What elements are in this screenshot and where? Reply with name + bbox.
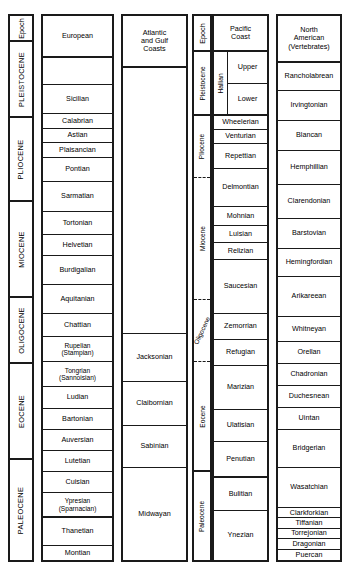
pacific-marizian: Marizian <box>214 366 267 410</box>
nam-whitneyan: Whitneyan <box>278 317 340 342</box>
column-epoch-european: Epoch PLEISTOCENE PLIOCENE MIOCENE OLIGO… <box>8 14 34 562</box>
european-montian: Montian <box>43 546 112 560</box>
epoch-left-oligocene: OLIGOCENE <box>10 298 32 364</box>
atlantic-sabinian: Sabinian <box>123 426 186 468</box>
nam-arikareean: Arikareean <box>278 277 340 317</box>
pacific-refugian: Refugian <box>214 340 267 366</box>
header-epoch-right: Epoch <box>194 16 210 52</box>
column-pacific-coast: Pacific Coast Hallian Upper Lower Wheele… <box>212 14 269 562</box>
nam-chadronian: Chadronian <box>278 364 340 386</box>
nam-barstovian: Barstovian <box>278 219 340 249</box>
european-sicilian: Sicilian <box>43 85 112 114</box>
european-chattian: Chattian <box>43 314 112 337</box>
epoch-left-eocene: EOCENE <box>10 364 32 460</box>
european-ypresian: Ypresian (Sparnacian) <box>43 493 112 518</box>
european-astian: Astian <box>43 129 112 143</box>
column-atlantic-gulf: Atlantic and Gulf Coasts Jacksonian Clai… <box>121 14 188 562</box>
header-pacific-coast: Pacific Coast <box>214 16 267 52</box>
epoch-right-oligocene: Oligocene <box>194 300 210 362</box>
nam-rancholabrean: Rancholabrean <box>278 63 340 91</box>
nam-tiffanian: Tiffanian <box>278 518 340 528</box>
epoch-left-paleocene: PALEOCENE <box>10 460 32 560</box>
nam-uintan: Uintan <box>278 408 340 430</box>
pacific-ynezian: Ynezian <box>214 511 267 560</box>
column-north-american-vertebrates: North American (Vertebrates) Rancholabre… <box>276 14 342 562</box>
atlantic-blank-row <box>123 68 186 334</box>
nam-hemphillian: Hemphillian <box>278 151 340 185</box>
epoch-left-pliocene: PLIOCENE <box>10 118 32 202</box>
nam-irvingtonian: Irvingtonian <box>278 91 340 121</box>
pacific-bulitian: Bulitian <box>214 478 267 511</box>
pacific-hallian-lower: Lower <box>228 84 267 116</box>
nam-blancan: Blancan <box>278 121 340 151</box>
atlantic-midwayan: Midwayan <box>123 468 186 560</box>
header-epoch-left: Epoch <box>10 16 32 42</box>
header-european: European <box>43 16 112 58</box>
pacific-luisian: Luisian <box>214 226 267 243</box>
header-atlantic-gulf: Atlantic and Gulf Coasts <box>123 16 186 68</box>
european-tortonian: Tortonian <box>43 212 112 235</box>
pacific-hallian-upper: Upper <box>228 52 267 84</box>
epoch-right-paleocene: Paleocene <box>194 472 210 560</box>
column-european: European Sicilian Calabrian Astian Plais… <box>41 14 114 562</box>
nam-clarkforkian: Clarkforkian <box>278 508 340 518</box>
pacific-ulatisian: Ulatisian <box>214 410 267 442</box>
pacific-mohnian: Mohnian <box>214 207 267 226</box>
epoch-right-miocene: Miocene <box>194 178 210 300</box>
european-lutetian: Lutetian <box>43 451 112 472</box>
nam-dragonian: Dragonian <box>278 539 340 549</box>
european-blank-row <box>43 58 112 85</box>
european-sarmatian: Sarmatian <box>43 182 112 212</box>
pacific-relizian: Relizian <box>214 243 267 260</box>
epoch-right-pliocene: Pliocene <box>194 116 210 178</box>
epoch-right-pleistocene: Pleistocene <box>194 52 210 116</box>
european-rupelian: Rupelian (Stampian) <box>43 337 112 362</box>
pacific-delmontian: Delmontian <box>214 169 267 207</box>
pacific-hallian: Hallian <box>214 52 228 116</box>
european-auversian: Auversian <box>43 430 112 451</box>
european-plaisancian: Plaisancian <box>43 143 112 158</box>
european-aquitanian: Aquitanian <box>43 285 112 314</box>
epoch-left-miocene: MIOCENE <box>10 202 32 298</box>
pacific-zemorrian: Zemorrian <box>214 314 267 340</box>
pacific-venturian: Venturian <box>214 130 267 144</box>
nam-orellan: Orellan <box>278 342 340 364</box>
pacific-repettian: Repettian <box>214 144 267 169</box>
european-pontian: Pontian <box>43 158 112 182</box>
epoch-right-eocene: Eocene <box>194 362 210 472</box>
pacific-wheelerian: Wheelerian <box>214 116 267 130</box>
header-north-american: North American (Vertebrates) <box>278 16 340 63</box>
european-ludian: Ludian <box>43 387 112 409</box>
european-burdigalian: Burdigalian <box>43 256 112 285</box>
epoch-left-pleistocene: PLEISTOCENE <box>10 42 32 118</box>
pacific-saucesian: Saucesian <box>214 260 267 314</box>
european-cuisian: Cuisian <box>43 472 112 493</box>
nam-puercan: Puercan <box>278 550 340 560</box>
pacific-penutian: Penutian <box>214 442 267 478</box>
geologic-time-correlation-chart: Epoch PLEISTOCENE PLIOCENE MIOCENE OLIGO… <box>0 0 348 575</box>
european-thanetian: Thanetian <box>43 518 112 546</box>
european-calabrian: Calabrian <box>43 114 112 129</box>
atlantic-claibornian: Claibornian <box>123 382 186 426</box>
nam-bridgerian: Bridgerian <box>278 430 340 468</box>
european-tongrian: Tongrian (Sannoisian) <box>43 362 112 387</box>
nam-wasatchian: Wasatchian <box>278 468 340 508</box>
european-helvetian: Helvetian <box>43 235 112 256</box>
nam-torrejonian: Torrejonian <box>278 529 340 539</box>
european-bartonian: Bartonian <box>43 409 112 430</box>
column-epoch-pacific: Epoch Pleistocene Pliocene Miocene Oligo… <box>192 14 212 562</box>
atlantic-jacksonian: Jacksonian <box>123 334 186 382</box>
nam-clarendonian: Clarendonian <box>278 185 340 219</box>
nam-duchesnean: Duchesnean <box>278 386 340 408</box>
nam-hemingfordian: Hemingfordian <box>278 249 340 277</box>
